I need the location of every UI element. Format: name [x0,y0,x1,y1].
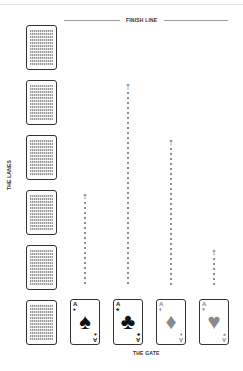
track-hearts: ⇡ [212,250,216,285]
diamonds-icon: ♦ [157,311,185,333]
card-back-pattern [30,194,53,231]
lane-card-1[interactable] [26,25,57,70]
card-back-pattern [30,304,53,341]
card-back-pattern [30,84,53,121]
track-clubs: ⇡ [126,84,130,285]
card-back-pattern [30,139,53,176]
card-rank: A [222,337,226,343]
top-divider [0,4,243,5]
card-back-pattern [30,29,53,66]
track-dots [127,92,129,285]
card-rank: A [136,337,140,343]
finish-line: FINISH LINE [64,17,228,25]
track-dots [170,148,172,285]
up-arrow-icon: ⇡ [82,194,88,200]
lane-card-6[interactable] [26,300,57,345]
lane-card-5[interactable] [26,245,57,290]
finish-line-bar-right [164,20,228,21]
lanes-label: THE LANES [6,160,12,190]
track-dots [213,258,215,285]
clubs-icon: ♣ [114,311,142,333]
up-arrow-icon: ⇡ [168,140,174,146]
gate-label: THE GATE [133,350,160,356]
lane-card-3[interactable] [26,135,57,180]
up-arrow-icon: ⇡ [125,84,131,90]
card-rank: A [93,337,97,343]
lane-card-4[interactable] [26,190,57,235]
card-back-pattern [30,249,53,286]
track-diamonds: ⇡ [169,140,173,285]
ace-of-hearts-card[interactable]: A♥♥♥A [199,299,229,345]
spades-icon: ♠ [71,311,99,333]
lane-card-2[interactable] [26,80,57,125]
ace-of-spades-card[interactable]: A♠♠♠A [70,299,100,345]
hearts-icon: ♥ [200,311,228,333]
ace-of-clubs-card[interactable]: A♣♣♣A [113,299,143,345]
ace-of-diamonds-card[interactable]: A♦♦♦A [156,299,186,345]
card-rank: A [179,337,183,343]
finish-line-bar-left [64,20,120,21]
track-spades: ⇡ [83,194,87,285]
finish-line-label: FINISH LINE [126,17,157,23]
track-dots [84,202,86,285]
up-arrow-icon: ⇡ [211,250,217,256]
